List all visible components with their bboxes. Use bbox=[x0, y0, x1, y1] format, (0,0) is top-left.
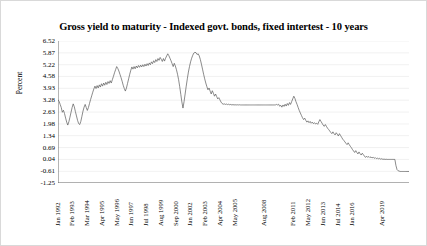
x-tick-label: Apr 1995 bbox=[98, 201, 105, 226]
x-tick-label: Jul 1998 bbox=[142, 203, 149, 226]
x-tick-label: Jun 1997 bbox=[127, 202, 134, 226]
x-tick-label: May 2005 bbox=[231, 199, 238, 226]
x-tick-label: Apr 2004 bbox=[216, 201, 223, 226]
x-tick-label: Feb 2003 bbox=[201, 201, 208, 226]
x-tick-label: Jul 2014 bbox=[334, 203, 341, 226]
x-tick-label: Aug 1999 bbox=[157, 200, 164, 226]
x-axis-tick-labels: Jan 1992Feb 1993Mar 1994Apr 1995May 1996… bbox=[1, 1, 427, 246]
x-tick-label: Feb 2011 bbox=[289, 202, 296, 226]
x-tick-label: May 1996 bbox=[113, 199, 120, 226]
x-tick-label: May 2012 bbox=[304, 199, 311, 226]
x-tick-label: Jun 2013 bbox=[319, 202, 326, 226]
x-tick-label: Jan 1992 bbox=[54, 202, 61, 226]
x-tick-label: Mar 1994 bbox=[83, 200, 90, 226]
x-tick-label: Aug 2008 bbox=[260, 200, 267, 226]
x-tick-label: Jan 2002 bbox=[186, 202, 193, 226]
chart-figure: Gross yield to maturity - Indexed govt. … bbox=[0, 0, 427, 246]
x-tick-label: Sep 2000 bbox=[172, 201, 179, 226]
x-tick-label: Feb 1993 bbox=[68, 201, 75, 226]
x-tick-label: Jan 2016 bbox=[348, 202, 355, 226]
x-tick-label: Apr 2019 bbox=[378, 201, 385, 226]
